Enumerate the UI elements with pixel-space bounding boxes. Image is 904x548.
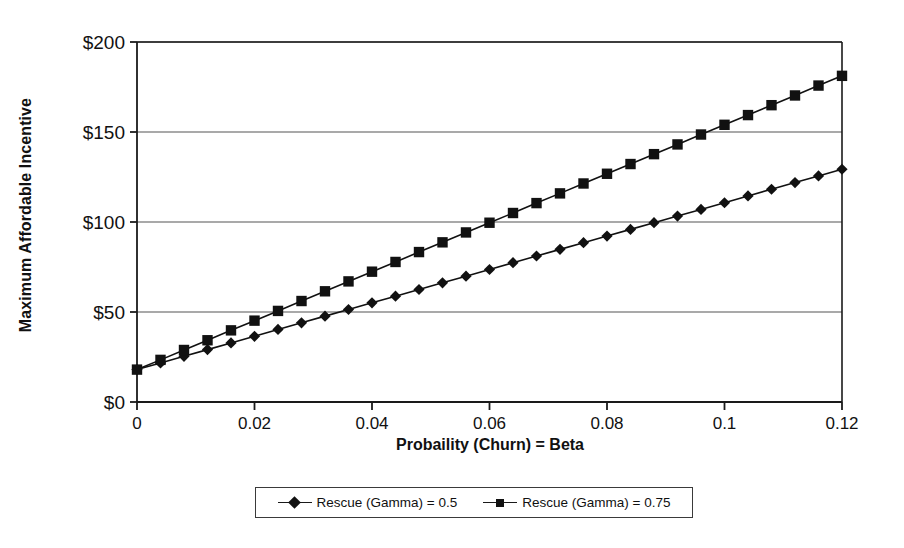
marker-diamond-0-24: [695, 204, 706, 215]
chart-page: Maximum Affordable Incentive $0$50$100$1…: [0, 0, 904, 548]
marker-diamond-0-15: [484, 264, 495, 275]
marker-diamond-0-6: [272, 324, 283, 335]
marker-square-1-29: [813, 80, 823, 90]
marker-square-1-14: [461, 227, 471, 237]
legend-label-1: Rescue (Gamma) = 0.75: [522, 495, 670, 510]
marker-diamond-0-4: [225, 337, 236, 348]
marker-square-1-13: [437, 237, 447, 247]
x-tick-label-4: 0.08: [590, 414, 623, 433]
marker-square-1-12: [414, 247, 424, 257]
marker-diamond-0-17: [531, 250, 542, 261]
legend-item-1[interactable]: Rescue (Gamma) = 0.75: [483, 495, 670, 510]
marker-square-1-22: [649, 149, 659, 159]
marker-diamond-0-7: [296, 317, 307, 328]
marker-square-1-6: [273, 306, 283, 316]
marker-diamond-0-28: [789, 177, 800, 188]
marker-diamond-0-21: [625, 224, 636, 235]
marker-diamond-0-27: [766, 184, 777, 195]
marker-square-1-8: [320, 286, 330, 296]
marker-diamond-0-20: [601, 230, 612, 241]
marker-square-1-18: [555, 188, 565, 198]
marker-diamond-0-18: [554, 244, 565, 255]
x-tick-label-0: 0: [132, 414, 141, 433]
series-0: [131, 164, 847, 376]
marker-square-1-16: [508, 208, 518, 218]
marker-square-1-21: [625, 159, 635, 169]
marker-diamond-0-13: [437, 277, 448, 288]
x-tick-label-5: 0.1: [713, 414, 737, 433]
square-marker-icon: [483, 496, 517, 510]
legend-label-0: Rescue (Gamma) = 0.5: [317, 495, 458, 510]
marker-square-1-11: [390, 257, 400, 267]
marker-square-1-10: [367, 266, 377, 276]
x-tick-label-1: 0.02: [238, 414, 271, 433]
plot-area: $0$50$100$150$20000.020.040.060.080.10.1…: [0, 0, 904, 470]
marker-square-1-4: [226, 325, 236, 335]
marker-square-1-7: [296, 296, 306, 306]
marker-diamond-0-25: [719, 197, 730, 208]
marker-diamond-0-29: [813, 170, 824, 181]
legend-item-0[interactable]: Rescue (Gamma) = 0.5: [278, 495, 458, 510]
marker-square-1-24: [696, 129, 706, 139]
marker-square-1-25: [719, 120, 729, 130]
x-tick-label-3: 0.06: [473, 414, 506, 433]
marker-diamond-0-16: [507, 257, 518, 268]
marker-diamond-0-10: [366, 297, 377, 308]
marker-square-1-17: [531, 198, 541, 208]
marker-square-1-27: [766, 100, 776, 110]
marker-diamond-0-14: [460, 271, 471, 282]
chart-svg: $0$50$100$150$20000.020.040.060.080.10.1…: [0, 0, 904, 470]
marker-diamond-0-30: [836, 164, 847, 175]
marker-diamond-0-11: [390, 291, 401, 302]
y-tick-label-1: $50: [93, 302, 125, 323]
marker-diamond-0-12: [413, 284, 424, 295]
marker-square-1-19: [578, 178, 588, 188]
marker-square-1-20: [602, 169, 612, 179]
chart-legend: Rescue (Gamma) = 0.5 Rescue (Gamma) = 0.…: [255, 487, 693, 518]
marker-square-1-23: [672, 139, 682, 149]
marker-square-1-3: [202, 335, 212, 345]
y-tick-label-0: $0: [104, 392, 125, 413]
marker-square-1-9: [343, 276, 353, 286]
marker-square-1-0: [132, 364, 142, 374]
x-tick-label-6: 0.12: [825, 414, 858, 433]
marker-square-1-5: [249, 315, 259, 325]
marker-square-1-1: [155, 355, 165, 365]
marker-square-1-26: [743, 110, 753, 120]
marker-square-1-28: [790, 90, 800, 100]
series-1: [132, 71, 847, 375]
y-tick-label-3: $150: [83, 122, 125, 143]
marker-diamond-0-23: [672, 210, 683, 221]
diamond-marker-icon: [278, 496, 312, 510]
marker-diamond-0-5: [249, 331, 260, 342]
y-tick-label-4: $200: [83, 32, 125, 53]
marker-diamond-0-19: [578, 237, 589, 248]
marker-square-1-15: [484, 218, 494, 228]
marker-square-1-2: [179, 345, 189, 355]
x-tick-label-2: 0.04: [355, 414, 388, 433]
y-tick-label-2: $100: [83, 212, 125, 233]
marker-diamond-0-3: [202, 344, 213, 355]
marker-square-1-30: [837, 71, 847, 81]
x-axis-title: Probaility (Churn) = Beta: [137, 436, 843, 454]
marker-diamond-0-9: [343, 304, 354, 315]
marker-diamond-0-26: [742, 190, 753, 201]
marker-diamond-0-22: [648, 217, 659, 228]
